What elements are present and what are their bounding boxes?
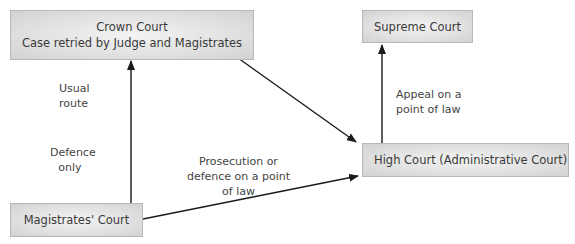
high-court-title: High Court (Administrative Court) xyxy=(374,152,567,168)
arrow-crown-to-high xyxy=(238,58,356,142)
label-defence-only: Defence only xyxy=(50,145,90,175)
supreme-court-title: Supreme Court xyxy=(374,19,461,35)
magistrates-court-title: Magistrates' Court xyxy=(24,212,130,228)
crown-court-node: Crown Court Case retried by Judge and Ma… xyxy=(10,10,254,60)
label-usual-route: Usual route xyxy=(59,81,90,111)
crown-court-subtitle: Case retried by Judge and Magistrates xyxy=(22,35,242,51)
high-court-node: High Court (Administrative Court) xyxy=(362,143,569,177)
label-appeal-point-of-law: Appeal on a point of law xyxy=(396,87,462,117)
supreme-court-node: Supreme Court xyxy=(362,10,473,43)
crown-court-title: Crown Court xyxy=(96,19,167,35)
label-prosecution-or-defence: Prosecution or defence on a point of law xyxy=(186,154,291,199)
magistrates-court-node: Magistrates' Court xyxy=(10,203,143,237)
